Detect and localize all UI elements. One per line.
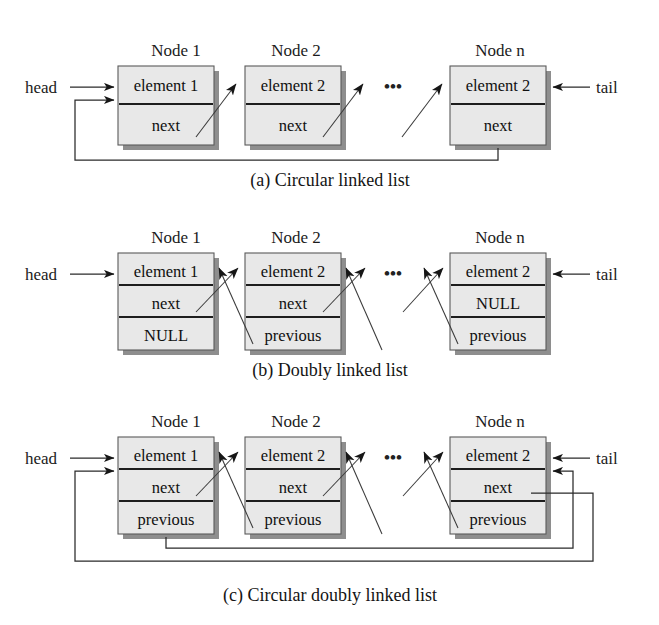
ellipsis-label: ••• [384, 264, 402, 283]
ellipsis-label: ••• [384, 448, 402, 467]
node-field: element 2 [466, 76, 531, 95]
head-pointer-label: head [25, 78, 58, 97]
node-field: next [484, 116, 513, 135]
node-title: Node 2 [271, 228, 321, 247]
node-field: element 1 [134, 262, 199, 281]
node-field: element 2 [261, 262, 326, 281]
node-field: next [152, 478, 181, 497]
node-title: Node n [475, 41, 525, 60]
tail-pointer-label: tail [596, 78, 618, 97]
node-field: next [279, 116, 308, 135]
node-title: Node n [475, 412, 525, 431]
node-field: element 1 [134, 446, 199, 465]
node-field: previous [265, 326, 322, 345]
node-field: next [484, 478, 513, 497]
diagram-caption: (c) Circular doubly linked list [223, 585, 437, 606]
node-box: element 2 next [245, 66, 346, 150]
ellipsis-label: ••• [384, 77, 402, 96]
node-field: next [152, 294, 181, 313]
diagram-caption: (b) Doubly linked list [252, 360, 408, 381]
linked-list-diagram-figure: Node 1 Node 2 Node n element 1 next elem… [0, 0, 659, 625]
node-field: next [279, 478, 308, 497]
node-field: previous [470, 510, 527, 529]
node-title: Node 2 [271, 412, 321, 431]
node-box: element 2 NULL previous [450, 253, 551, 355]
node-title: Node 2 [271, 41, 321, 60]
node-field: previous [265, 510, 322, 529]
head-pointer-label: head [25, 265, 58, 284]
node-title: Node 1 [151, 228, 201, 247]
node-field: element 2 [261, 446, 326, 465]
node-title: Node 1 [151, 412, 201, 431]
node-field: NULL [144, 326, 188, 345]
node-box: element 2 next previous [450, 437, 551, 539]
node-field: next [279, 294, 308, 313]
node-box: element 1 next [118, 66, 219, 150]
node-field: previous [138, 510, 195, 529]
node-field: previous [470, 326, 527, 345]
node-field: element 2 [466, 446, 531, 465]
node-title: Node 1 [151, 41, 201, 60]
node-field: element 2 [261, 76, 326, 95]
head-pointer-label: head [25, 449, 58, 468]
tail-pointer-label: tail [596, 449, 618, 468]
node-field: element 2 [466, 262, 531, 281]
node-field: element 1 [134, 76, 199, 95]
node-field: NULL [476, 294, 520, 313]
node-title: Node n [475, 228, 525, 247]
node-box: element 2 next [450, 66, 551, 150]
diagram-caption: (a) Circular linked list [250, 170, 409, 191]
tail-pointer-label: tail [596, 265, 618, 284]
node-field: next [152, 116, 181, 135]
